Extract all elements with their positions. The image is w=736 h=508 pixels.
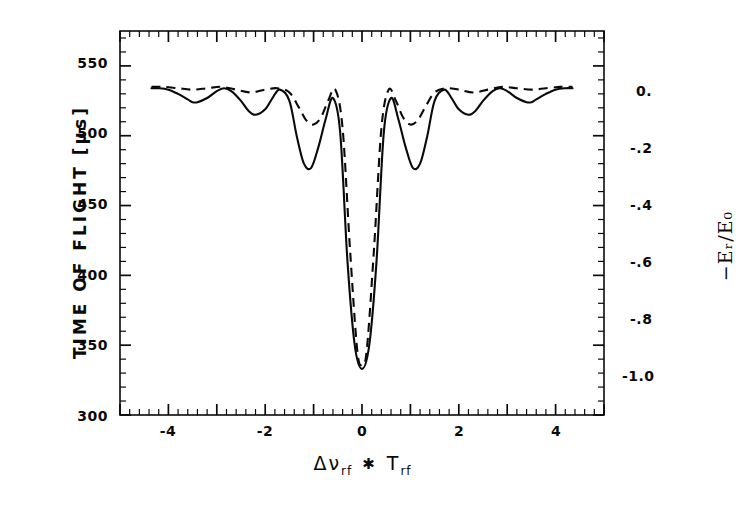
data-curve-dashed — [151, 87, 572, 365]
data-curve-solid — [151, 88, 572, 369]
